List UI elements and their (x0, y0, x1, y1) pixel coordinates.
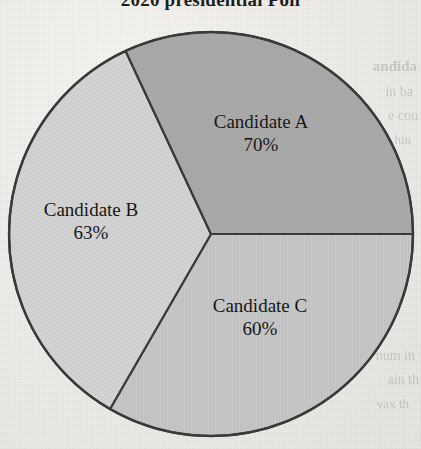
slice-label-candidate-a-value: 70% (196, 133, 326, 156)
slice-label-candidate-b: Candidate B 63% (21, 198, 161, 244)
slice-label-candidate-c: Candidate C 60% (190, 294, 330, 340)
slice-label-candidate-b-value: 63% (21, 221, 161, 244)
slice-label-candidate-b-name: Candidate B (44, 199, 138, 220)
pie-chart-scan: andida in ba e cou hin num in ain th vax… (0, 0, 421, 449)
slice-label-candidate-c-name: Candidate C (213, 295, 307, 316)
slice-label-candidate-c-value: 60% (190, 317, 330, 340)
slice-label-candidate-a: Candidate A 70% (196, 110, 326, 156)
slice-label-candidate-a-name: Candidate A (214, 111, 308, 132)
